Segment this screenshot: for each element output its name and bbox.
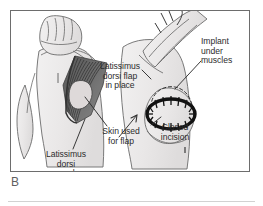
callout-implant-under-muscles: Implant under muscles <box>201 37 250 66</box>
figure-page: Latissimus dorsi flap in place Implant u… <box>0 0 263 206</box>
left-lateral-arm-contour <box>17 85 33 159</box>
panel-label: B <box>11 176 19 189</box>
bottom-divider <box>8 201 255 202</box>
figure-frame: Latissimus dorsi flap in place Implant u… <box>10 10 250 172</box>
callout-latissimus-dorsi-flap-in-place: Latissimus dorsi flap in place <box>89 62 151 91</box>
left-raised-arm <box>40 16 82 55</box>
callout-skin-used-for-flap: Skin used for flap <box>93 127 149 146</box>
illustration-artwork <box>11 11 249 171</box>
callout-closed-incision: Closed incision <box>151 123 199 142</box>
callout-latissimus-dorsi-muscle: Latissimus dorsi muscle <box>33 150 99 172</box>
